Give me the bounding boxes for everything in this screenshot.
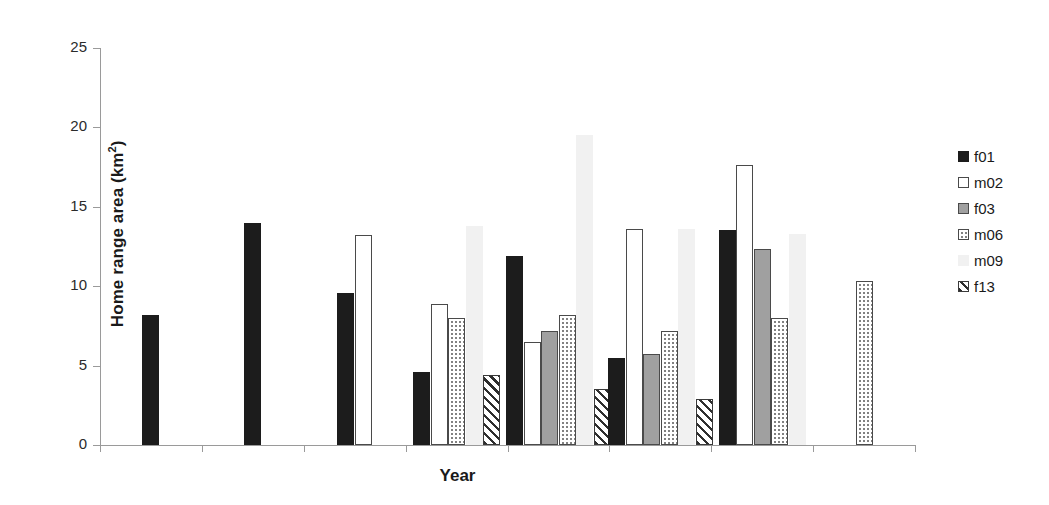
bar-group bbox=[608, 48, 713, 445]
bar-m02 bbox=[431, 304, 448, 445]
bar-m06 bbox=[856, 281, 873, 445]
legend-label-f01: f01 bbox=[974, 149, 995, 164]
bar-m02 bbox=[355, 235, 372, 445]
legend-item-f13: f13 bbox=[958, 273, 1048, 299]
x-axis-tick bbox=[915, 445, 916, 452]
y-axis-line bbox=[100, 48, 101, 445]
x-axis-title: Year bbox=[0, 466, 915, 486]
bar-m02 bbox=[626, 229, 643, 445]
bar-group bbox=[337, 48, 372, 445]
legend-swatch-f01 bbox=[958, 151, 969, 162]
bar-m06 bbox=[771, 318, 788, 445]
bar-f01 bbox=[244, 223, 261, 445]
legend-item-m02: m02 bbox=[958, 169, 1048, 195]
legend-label-f03: f03 bbox=[974, 201, 995, 216]
bar-f01 bbox=[719, 230, 736, 445]
bar-f01 bbox=[337, 293, 354, 445]
legend-item-f01: f01 bbox=[958, 143, 1048, 169]
bar-group bbox=[856, 48, 873, 445]
chart-figure: Home range area (km2) 0510152025 Year f0… bbox=[0, 0, 1049, 505]
legend-swatch-m06 bbox=[958, 229, 969, 240]
legend-item-f03: f03 bbox=[958, 195, 1048, 221]
bar-m09 bbox=[576, 135, 593, 445]
bar-group bbox=[506, 48, 611, 445]
y-axis-tick-label: 15 bbox=[70, 197, 87, 214]
y-axis-tick: 25 bbox=[93, 48, 100, 49]
y-axis-tick: 0 bbox=[93, 445, 100, 446]
legend-item-m09: m09 bbox=[958, 247, 1048, 273]
x-axis-tick bbox=[508, 445, 509, 452]
x-axis-tick bbox=[202, 445, 203, 452]
y-axis-tick-label: 20 bbox=[70, 117, 87, 134]
bar-group bbox=[719, 48, 806, 445]
bar-m02 bbox=[524, 342, 541, 445]
legend-label-f13: f13 bbox=[974, 279, 995, 294]
bar-f01 bbox=[413, 372, 430, 445]
legend-label-m09: m09 bbox=[974, 253, 1003, 268]
bar-f01 bbox=[608, 358, 625, 445]
bar-f03 bbox=[643, 354, 660, 445]
y-axis-tick: 5 bbox=[93, 366, 100, 367]
x-axis-tick bbox=[406, 445, 407, 452]
bar-f01 bbox=[142, 315, 159, 445]
bar-f03 bbox=[754, 249, 771, 445]
y-axis-tick-label: 0 bbox=[79, 435, 87, 452]
bar-m09 bbox=[789, 234, 806, 445]
y-axis-tick: 20 bbox=[93, 127, 100, 128]
legend-swatch-m09 bbox=[958, 255, 969, 266]
bar-f13 bbox=[696, 399, 713, 445]
legend-swatch-f03 bbox=[958, 203, 969, 214]
y-axis-tick-label: 25 bbox=[70, 38, 87, 55]
bar-m06 bbox=[661, 331, 678, 445]
bar-f03 bbox=[541, 331, 558, 445]
legend-item-m06: m06 bbox=[958, 221, 1048, 247]
x-axis-tick bbox=[609, 445, 610, 452]
x-axis-tick bbox=[304, 445, 305, 452]
x-axis-tick bbox=[100, 445, 101, 452]
x-axis-tick bbox=[813, 445, 814, 452]
bar-f13 bbox=[483, 375, 500, 445]
y-axis-tick: 10 bbox=[93, 286, 100, 287]
legend-label-m02: m02 bbox=[974, 175, 1003, 190]
bar-m06 bbox=[559, 315, 576, 445]
bar-m09 bbox=[678, 229, 695, 445]
chart-legend: f01m02f03m06m09f13 bbox=[958, 143, 1048, 299]
bar-group bbox=[142, 48, 159, 445]
bar-m09 bbox=[466, 226, 483, 445]
bar-f01 bbox=[506, 256, 523, 445]
legend-swatch-m02 bbox=[958, 177, 969, 188]
bar-group bbox=[413, 48, 500, 445]
bar-m06 bbox=[448, 318, 465, 445]
y-axis-tick: 15 bbox=[93, 207, 100, 208]
bar-group bbox=[244, 48, 261, 445]
x-axis-tick bbox=[711, 445, 712, 452]
plot-area: 0510152025 bbox=[100, 48, 915, 445]
bar-m02 bbox=[736, 165, 753, 445]
y-axis-tick-label: 5 bbox=[79, 356, 87, 373]
legend-label-m06: m06 bbox=[974, 227, 1003, 242]
legend-swatch-f13 bbox=[958, 281, 969, 292]
y-axis-tick-label: 10 bbox=[70, 276, 87, 293]
